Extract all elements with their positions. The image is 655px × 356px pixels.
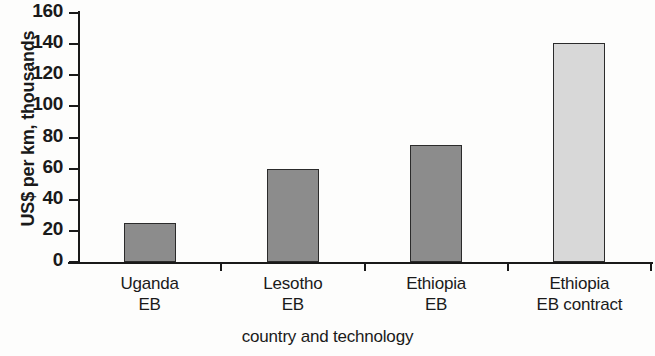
bar[interactable] — [124, 223, 176, 262]
category-label-line1: Ethiopia — [406, 274, 466, 293]
x-axis-category-label: EthiopiaEB — [365, 274, 508, 315]
category-label-line2: EB — [365, 295, 508, 316]
y-axis-tick: 20 — [69, 230, 78, 232]
x-axis-category-label: UgandaEB — [78, 274, 221, 315]
y-axis-tick: 120 — [69, 74, 78, 76]
category-label-line1: Uganda — [120, 274, 178, 293]
category-label-line1: Ethiopia — [549, 274, 609, 293]
y-axis-tick: 100 — [69, 105, 78, 107]
x-axis-tick — [650, 262, 652, 271]
y-axis-tick-label: 80 — [42, 125, 63, 147]
x-axis-category-label: LesothoEB — [221, 274, 364, 315]
y-axis-tick-label: 60 — [42, 156, 63, 178]
y-axis-tick-label: 100 — [32, 93, 63, 115]
category-label-line2: EB — [78, 295, 221, 316]
x-axis-tick — [364, 262, 366, 271]
y-axis-tick-label: 0 — [53, 249, 63, 271]
y-axis-tick: 60 — [69, 168, 78, 170]
y-axis-tick-label: 40 — [42, 187, 63, 209]
y-axis-tick: 0 — [69, 261, 78, 263]
y-axis-tick-label: 140 — [32, 31, 63, 53]
plot-area: 020406080100120140160 — [78, 13, 651, 262]
category-label-line2: EB — [221, 295, 364, 316]
category-label-line2: EB contract — [508, 295, 651, 316]
y-axis-tick: 160 — [69, 12, 78, 14]
y-axis-tick: 80 — [69, 137, 78, 139]
bar[interactable] — [410, 145, 462, 262]
bar[interactable] — [267, 169, 319, 262]
y-axis-tick-label: 20 — [42, 218, 63, 240]
x-axis-tick — [507, 262, 509, 271]
x-axis-line — [68, 262, 653, 264]
y-axis-tick: 140 — [69, 43, 78, 45]
x-axis-tick — [220, 262, 222, 271]
y-axis-tick-label: 120 — [32, 62, 63, 84]
y-axis-tick: 40 — [69, 199, 78, 201]
x-axis-category-label: EthiopiaEB contract — [508, 274, 651, 315]
bar[interactable] — [553, 43, 605, 262]
y-axis-line — [78, 11, 80, 264]
y-axis-tick-label: 160 — [32, 0, 63, 22]
bar-chart-figure: US$ per km, thousands 020406080100120140… — [0, 0, 655, 356]
x-axis-title: country and technology — [0, 327, 655, 347]
category-label-line1: Lesotho — [263, 274, 322, 293]
